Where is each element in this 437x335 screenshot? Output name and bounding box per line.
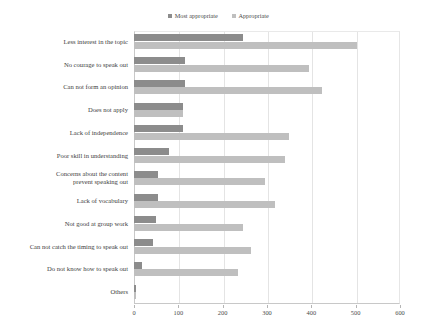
bar-appropriate (134, 156, 285, 163)
category-label: Does not apply (88, 106, 128, 114)
bar-most-appropriate (134, 103, 183, 110)
tick-mark (400, 305, 401, 308)
category-label: Lack of vocabulary (77, 197, 128, 205)
bar-series-container (134, 31, 400, 304)
category-label: Concerns about the content prevent speak… (56, 170, 128, 186)
bar-group (134, 239, 400, 255)
bar-appropriate (134, 292, 136, 299)
tick-label: 600 (395, 309, 405, 317)
bar-most-appropriate (134, 194, 158, 201)
bar-most-appropriate (134, 80, 185, 87)
bar-appropriate (134, 87, 322, 94)
legend-label-most-appropriate: Most appropriate (175, 13, 218, 19)
legend-swatch-most-appropriate (168, 14, 172, 18)
bar-group (134, 148, 400, 164)
bar-group (134, 80, 400, 96)
value-axis-ticks: 0100200300400500600 (134, 305, 400, 319)
tick-label: 300 (262, 309, 272, 317)
bar-chart: Most appropriate Appropriate Less intere… (0, 0, 437, 335)
tick-mark (267, 305, 268, 308)
bar-appropriate (134, 110, 183, 117)
legend-swatch-appropriate (232, 14, 236, 18)
bar-appropriate (134, 65, 309, 72)
category-label: No courage to speak out (64, 61, 128, 69)
bar-group (134, 103, 400, 119)
tick-label: 200 (218, 309, 228, 317)
bar-most-appropriate (134, 216, 156, 223)
bar-group (134, 194, 400, 210)
bar-most-appropriate (134, 57, 185, 64)
legend-entry-appropriate: Appropriate (232, 13, 269, 19)
bar-group (134, 57, 400, 73)
bar-most-appropriate (134, 171, 158, 178)
bar-most-appropriate (134, 148, 169, 155)
bar-group (134, 125, 400, 141)
bar-group (134, 285, 400, 301)
tick-mark (134, 305, 135, 308)
tick-mark (223, 305, 224, 308)
bar-appropriate (134, 201, 275, 208)
bar-appropriate (134, 133, 289, 140)
tick-mark (178, 305, 179, 308)
bar-appropriate (134, 269, 238, 276)
category-axis-labels: Less interest in the topicNo courage to … (0, 31, 131, 304)
bar-appropriate (134, 247, 251, 254)
bar-most-appropriate (134, 285, 136, 292)
bar-appropriate (134, 42, 357, 49)
chart-legend: Most appropriate Appropriate (0, 13, 437, 19)
bar-group (134, 171, 400, 187)
tick-label: 400 (307, 309, 317, 317)
category-label: Can not catch the timing to speak out (30, 243, 128, 251)
category-label: Lack of independence (70, 129, 128, 137)
bar-group (134, 34, 400, 50)
bar-group (134, 262, 400, 278)
tick-mark (311, 305, 312, 308)
bar-most-appropriate (134, 262, 142, 269)
legend-entry-most-appropriate: Most appropriate (168, 13, 218, 19)
category-label: Less interest in the topic (64, 38, 128, 46)
tick-label: 500 (351, 309, 361, 317)
bar-most-appropriate (134, 125, 183, 132)
category-label: Can not form an opinion (63, 83, 128, 91)
bar-appropriate (134, 224, 243, 231)
bar-group (134, 216, 400, 232)
category-label: Poor skill in understanding (57, 152, 128, 160)
category-label: Others (110, 288, 128, 296)
bar-most-appropriate (134, 34, 243, 41)
category-label: Not good at group work (65, 220, 128, 228)
bar-appropriate (134, 178, 265, 185)
legend-label-appropriate: Appropriate (238, 13, 268, 19)
category-label: Do not know how to speak out (47, 265, 128, 273)
tick-label: 100 (174, 309, 184, 317)
tick-label: 0 (132, 309, 135, 317)
bar-most-appropriate (134, 239, 153, 246)
tick-mark (356, 305, 357, 308)
